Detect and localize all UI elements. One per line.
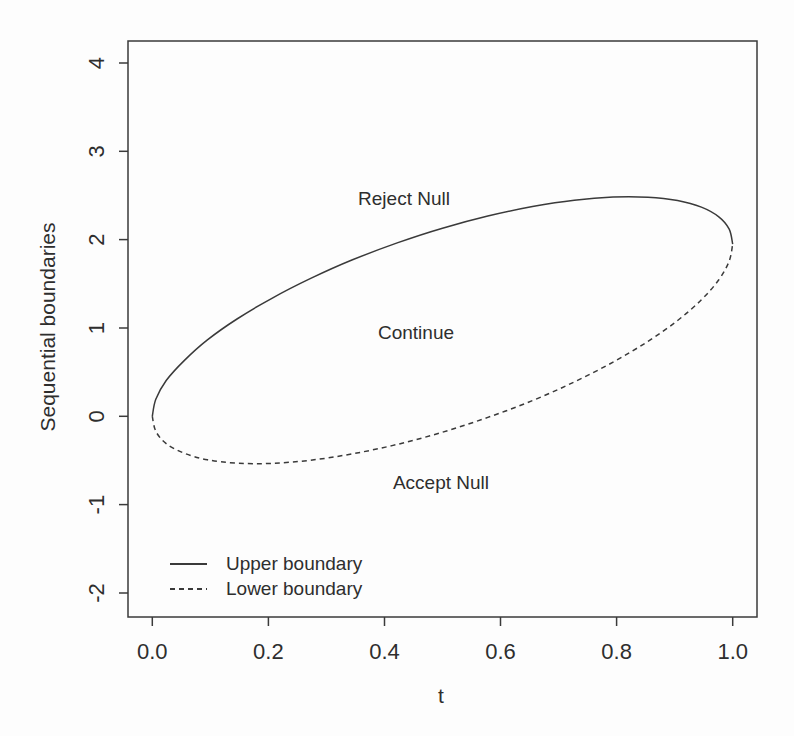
dashed-line-sample [170,588,207,590]
annotation-continue: Continue [378,322,454,344]
x-tick-label: 0.0 [137,639,168,664]
x-tick-label: 0.2 [253,639,284,664]
y-tick-label: -2 [84,583,109,603]
x-tick-label: 0.6 [485,639,516,664]
x-axis-label: t [438,684,444,708]
legend-label-lower: Lower boundary [226,578,362,600]
legend-label-upper: Upper boundary [226,553,362,575]
y-tick-label: 0 [84,410,109,422]
annotation-reject-null: Reject Null [358,188,450,210]
y-tick-label: 3 [84,145,109,157]
legend-row-lower: Lower boundary [170,576,362,601]
y-tick-label: 1 [84,322,109,334]
solid-line-sample [170,563,207,565]
sequential-boundaries-figure: 0.00.20.40.60.81.0-2-101234 Sequential b… [0,0,794,736]
y-tick-label: 2 [84,233,109,245]
x-tick-label: 1.0 [717,639,748,664]
y-axis-label: Sequential boundaries [36,223,60,432]
upper-boundary-curve [152,197,732,417]
x-tick-label: 0.8 [601,639,632,664]
legend-row-upper: Upper boundary [170,551,362,576]
legend: Upper boundary Lower boundary [170,551,362,601]
lower-boundary-curve [152,244,732,464]
x-tick-label: 0.4 [369,639,400,664]
y-tick-label: 4 [84,57,109,69]
y-tick-label: -1 [84,495,109,515]
annotation-accept-null: Accept Null [393,472,489,494]
plot-canvas: 0.00.20.40.60.81.0-2-101234 [0,0,794,736]
